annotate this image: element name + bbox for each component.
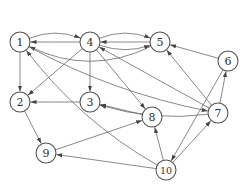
node-10: 10 <box>156 160 176 180</box>
node-label: 5 <box>157 36 164 49</box>
edge-2-to-9 <box>25 111 42 144</box>
node-4: 4 <box>80 32 100 52</box>
edge-4-to-2 <box>28 49 82 96</box>
directed-graph: 12345678910 <box>0 0 247 192</box>
node-label: 4 <box>87 36 94 49</box>
node-label: 10 <box>160 165 172 176</box>
edge-4-to-8 <box>96 50 145 109</box>
edge-6-to-5 <box>170 45 218 59</box>
edge-10-to-7 <box>173 121 211 163</box>
node-2: 2 <box>10 92 30 112</box>
node-label: 6 <box>225 55 232 68</box>
edge-4-to-5 <box>100 45 151 49</box>
node-label: 8 <box>149 111 156 124</box>
node-8: 8 <box>142 107 162 127</box>
edge-10-to-8 <box>155 127 164 160</box>
edge-8-to-3 <box>100 105 142 115</box>
node-3: 3 <box>80 92 100 112</box>
node-9: 9 <box>36 143 56 163</box>
edge-10-to-9 <box>56 155 156 169</box>
node-5: 5 <box>150 32 170 52</box>
node-6: 6 <box>218 51 238 71</box>
node-1: 1 <box>10 32 30 52</box>
node-label: 7 <box>215 107 222 120</box>
edge-4-to-5 <box>99 33 150 38</box>
node-label: 3 <box>87 96 94 109</box>
edge-1-to-4 <box>29 33 80 38</box>
node-label: 2 <box>17 96 24 109</box>
node-label: 1 <box>17 36 24 49</box>
node-7: 7 <box>208 103 228 123</box>
edge-7-to-6 <box>220 71 226 103</box>
edge-7-to-4 <box>99 47 209 108</box>
node-label: 9 <box>43 147 50 160</box>
